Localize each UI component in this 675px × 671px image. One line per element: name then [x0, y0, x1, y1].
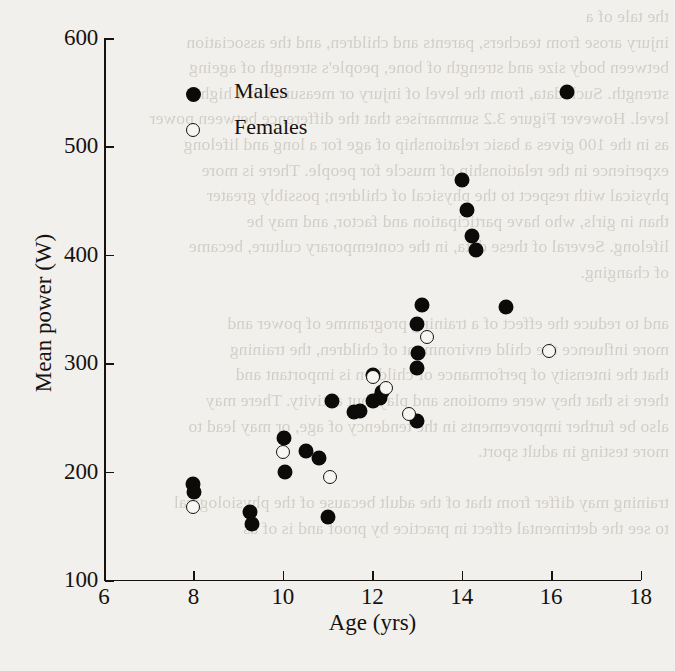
x-tick-mark — [462, 571, 464, 580]
data-point-females — [542, 344, 556, 358]
data-point-males — [410, 346, 425, 361]
data-point-males — [187, 485, 202, 500]
data-point-males — [409, 360, 424, 375]
x-tick-label: 16 — [540, 584, 563, 610]
y-tick-mark — [105, 146, 114, 148]
data-point-males — [499, 299, 514, 314]
y-tick-label: 400 — [64, 242, 98, 268]
x-tick-label: 12 — [361, 584, 384, 610]
x-tick-mark — [283, 571, 285, 580]
y-tick-mark — [105, 255, 114, 257]
x-tick-mark — [551, 571, 553, 580]
data-point-males — [325, 394, 340, 409]
y-tick-mark — [105, 472, 114, 474]
data-point-males — [415, 297, 430, 312]
y-tick-label: 200 — [64, 459, 98, 485]
y-tick-mark — [105, 580, 114, 582]
data-point-males — [464, 229, 479, 244]
y-tick-label: 100 — [64, 567, 98, 593]
scanned-figure-page: the tale of a injury arose from teachers… — [0, 0, 675, 671]
legend-label-males: Males — [234, 78, 288, 104]
data-point-females — [186, 500, 200, 514]
x-tick-label: 6 — [98, 584, 109, 610]
data-point-males — [559, 85, 574, 100]
data-point-males — [409, 317, 424, 332]
x-tick-label: 10 — [272, 584, 295, 610]
y-tick-label: 600 — [64, 25, 98, 51]
x-tick-label: 18 — [629, 584, 652, 610]
x-tick-label: 8 — [188, 584, 199, 610]
y-axis-title: Mean power (W) — [31, 183, 57, 443]
data-point-females — [379, 381, 393, 395]
data-point-females — [420, 330, 434, 344]
data-point-males — [244, 516, 259, 531]
data-point-males — [276, 430, 291, 445]
x-tick-mark — [193, 571, 195, 580]
data-point-females — [366, 370, 380, 384]
data-point-males — [278, 464, 293, 479]
scatter-plot: 100200300400500600 681012141618 Mean pow… — [0, 0, 675, 671]
data-point-females — [323, 470, 337, 484]
data-point-females — [402, 407, 416, 421]
data-point-males — [454, 173, 469, 188]
x-tick-mark — [641, 571, 643, 580]
y-tick-mark — [105, 363, 114, 365]
filled-circle-icon — [186, 87, 201, 102]
data-point-males — [460, 203, 475, 218]
data-point-females — [276, 445, 290, 459]
open-circle-icon — [186, 123, 200, 137]
legend-label-females: Females — [234, 114, 307, 140]
data-point-males — [468, 243, 483, 258]
x-tick-mark — [372, 571, 374, 580]
x-axis-title: Age (yrs) — [104, 610, 641, 636]
y-axis-line — [104, 38, 106, 581]
data-point-males — [311, 450, 326, 465]
y-tick-label: 300 — [64, 350, 98, 376]
data-point-males — [321, 510, 336, 525]
data-point-males — [352, 403, 367, 418]
y-tick-label: 500 — [64, 133, 98, 159]
y-tick-mark — [105, 38, 114, 40]
x-tick-label: 14 — [450, 584, 473, 610]
